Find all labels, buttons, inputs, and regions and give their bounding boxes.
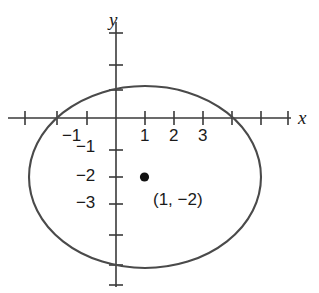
plot-canvas [0, 0, 319, 293]
y-tick-label-neg1: −1 [76, 138, 95, 155]
center-point-marker [140, 172, 149, 181]
ellipse-graph-figure: x y −1 1 2 3 −1 −2 −3 (1, −2) [0, 0, 319, 293]
y-axis-label: y [109, 10, 117, 29]
x-tick-label-1: 1 [140, 127, 149, 144]
center-point-label: (1, −2) [153, 191, 203, 208]
x-tick-label-3: 3 [198, 127, 207, 144]
y-tick-label-neg2: −2 [76, 167, 95, 184]
y-tick-label-neg3: −3 [76, 194, 95, 211]
x-tick-label-2: 2 [169, 127, 178, 144]
x-axis-label: x [298, 108, 306, 127]
